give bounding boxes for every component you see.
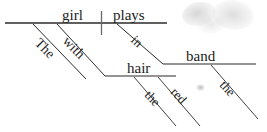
label-subject: girl <box>62 8 83 23</box>
label-verb: plays <box>113 8 145 23</box>
label-object-of-in: band <box>186 49 215 64</box>
sentence-diagram: girl plays hair band The with in the red… <box>0 0 267 132</box>
label-object-of-with: hair <box>127 61 150 76</box>
